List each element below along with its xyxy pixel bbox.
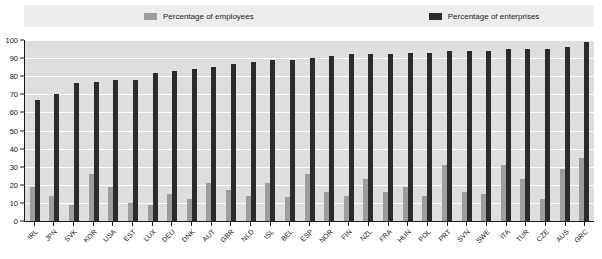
bar-group[interactable] [182, 40, 202, 221]
y-axis-tick-label: 90 [10, 54, 18, 63]
bar-group[interactable] [162, 40, 182, 221]
bar-group[interactable] [300, 40, 320, 221]
bar-group[interactable] [45, 40, 65, 221]
bar-group[interactable] [339, 40, 359, 221]
bar-fra-enterprises[interactable] [388, 54, 393, 221]
x-axis-label-jpn: JPN [44, 228, 58, 242]
x-axis-label-cell: SVN [456, 226, 476, 259]
bar-nor-enterprises[interactable] [329, 56, 334, 221]
bar-nld-enterprises[interactable] [251, 62, 256, 221]
plot-area [24, 40, 594, 222]
y-axis-tick-label: 60 [10, 108, 18, 117]
x-axis-label-nld: NLD [240, 228, 255, 243]
bar-group[interactable] [25, 40, 45, 221]
bar-kor-enterprises[interactable] [94, 82, 99, 221]
x-axis-label-nor: NOR [318, 228, 334, 244]
bar-isl-enterprises[interactable] [270, 60, 275, 221]
bar-group[interactable] [123, 40, 143, 221]
x-axis-label-cell: USA [103, 226, 123, 259]
x-axis-label-usa: USA [102, 228, 117, 243]
x-axis-label-cell: NOR [319, 226, 339, 259]
bar-cze-enterprises[interactable] [545, 49, 550, 221]
x-axis-label-cell: NLD [240, 226, 260, 259]
x-axis-label-cell: KOR [83, 226, 103, 259]
bar-pol-enterprises[interactable] [427, 53, 432, 221]
y-axis-tick-label: 30 [10, 162, 18, 171]
bar-group[interactable] [261, 40, 281, 221]
x-axis-label-cell: GBR [221, 226, 241, 259]
x-axis-label-isl: ISL [262, 228, 274, 240]
x-axis-label-fra: FRA [378, 228, 393, 243]
legend-swatch-black-icon [429, 13, 442, 20]
bar-group[interactable] [575, 40, 595, 221]
bar-group[interactable] [535, 40, 555, 221]
x-axis-label-swe: SWE [475, 228, 491, 244]
bar-group[interactable] [516, 40, 536, 221]
x-axis-label-esp: ESP [299, 228, 314, 243]
y-axis-tick-label: 20 [10, 180, 18, 189]
bar-group[interactable] [555, 40, 575, 221]
bar-group[interactable] [359, 40, 379, 221]
x-axis-label-cell: JPN [44, 226, 64, 259]
y-axis-tick-label: 80 [10, 72, 18, 81]
bar-gbr-enterprises[interactable] [231, 64, 236, 221]
x-axis-label-cell: SWE [476, 226, 496, 259]
bar-group[interactable] [378, 40, 398, 221]
x-axis-label-cell: IRL [24, 226, 44, 259]
bar-esp-enterprises[interactable] [310, 58, 315, 221]
bar-fin-enterprises[interactable] [349, 54, 354, 221]
y-axis-tick-label: 40 [10, 144, 18, 153]
legend-label-enterprises: Percentage of enterprises [448, 12, 540, 21]
x-axis-label-cell: SVK [63, 226, 83, 259]
x-axis-label-cell: DNK [181, 226, 201, 259]
bar-aut-enterprises[interactable] [211, 67, 216, 221]
x-axis-label-hun: HUN [397, 228, 413, 244]
bar-jpn-enterprises[interactable] [54, 94, 59, 221]
bar-ita-enterprises[interactable] [506, 49, 511, 221]
bar-svn-enterprises[interactable] [467, 51, 472, 221]
bar-deu-enterprises[interactable] [172, 71, 177, 221]
bar-group[interactable] [241, 40, 261, 221]
bar-irl-enterprises[interactable] [35, 100, 40, 221]
bar-bel-enterprises[interactable] [290, 60, 295, 221]
x-axis-label-cell: NZL [358, 226, 378, 259]
y-axis-tick-label: 50 [10, 126, 18, 135]
bar-aus-enterprises[interactable] [565, 47, 570, 221]
bar-group[interactable] [221, 40, 241, 221]
x-axis-label-cell: ESP [299, 226, 319, 259]
bar-nzl-enterprises[interactable] [368, 54, 373, 221]
x-axis-label-nzl: NZL [359, 228, 373, 242]
x-axis-label-ita: ITA [498, 228, 510, 240]
bar-svk-enterprises[interactable] [74, 83, 79, 221]
x-axis-label-cze: CZE [535, 228, 550, 243]
bar-group[interactable] [104, 40, 124, 221]
x-axis-label-cell: POL [417, 226, 437, 259]
bar-prt-enterprises[interactable] [447, 51, 452, 221]
bar-group[interactable] [84, 40, 104, 221]
x-axis-label-deu: DEU [161, 228, 176, 243]
y-axis: 0102030405060708090100 [0, 40, 24, 222]
bar-hun-enterprises[interactable] [408, 53, 413, 221]
bar-group[interactable] [280, 40, 300, 221]
bar-lux-enterprises[interactable] [153, 73, 158, 221]
bar-group[interactable] [457, 40, 477, 221]
bar-swe-enterprises[interactable] [486, 51, 491, 221]
bar-dnk-enterprises[interactable] [192, 69, 197, 221]
bar-series-container [25, 40, 594, 221]
bar-tur-enterprises[interactable] [525, 49, 530, 221]
bar-group[interactable] [398, 40, 418, 221]
x-axis-label-cell: FIN [339, 226, 359, 259]
bar-usa-enterprises[interactable] [113, 80, 118, 221]
bar-group[interactable] [202, 40, 222, 221]
bar-group[interactable] [319, 40, 339, 221]
bar-group[interactable] [437, 40, 457, 221]
bar-group[interactable] [143, 40, 163, 221]
x-axis-label-cell: FRA [378, 226, 398, 259]
bar-group[interactable] [64, 40, 84, 221]
bar-group[interactable] [496, 40, 516, 221]
bar-group[interactable] [476, 40, 496, 221]
x-axis-label-fin: FIN [340, 228, 353, 241]
bar-group[interactable] [418, 40, 438, 221]
bar-grc-enterprises[interactable] [584, 42, 589, 221]
bar-est-enterprises[interactable] [133, 80, 138, 221]
